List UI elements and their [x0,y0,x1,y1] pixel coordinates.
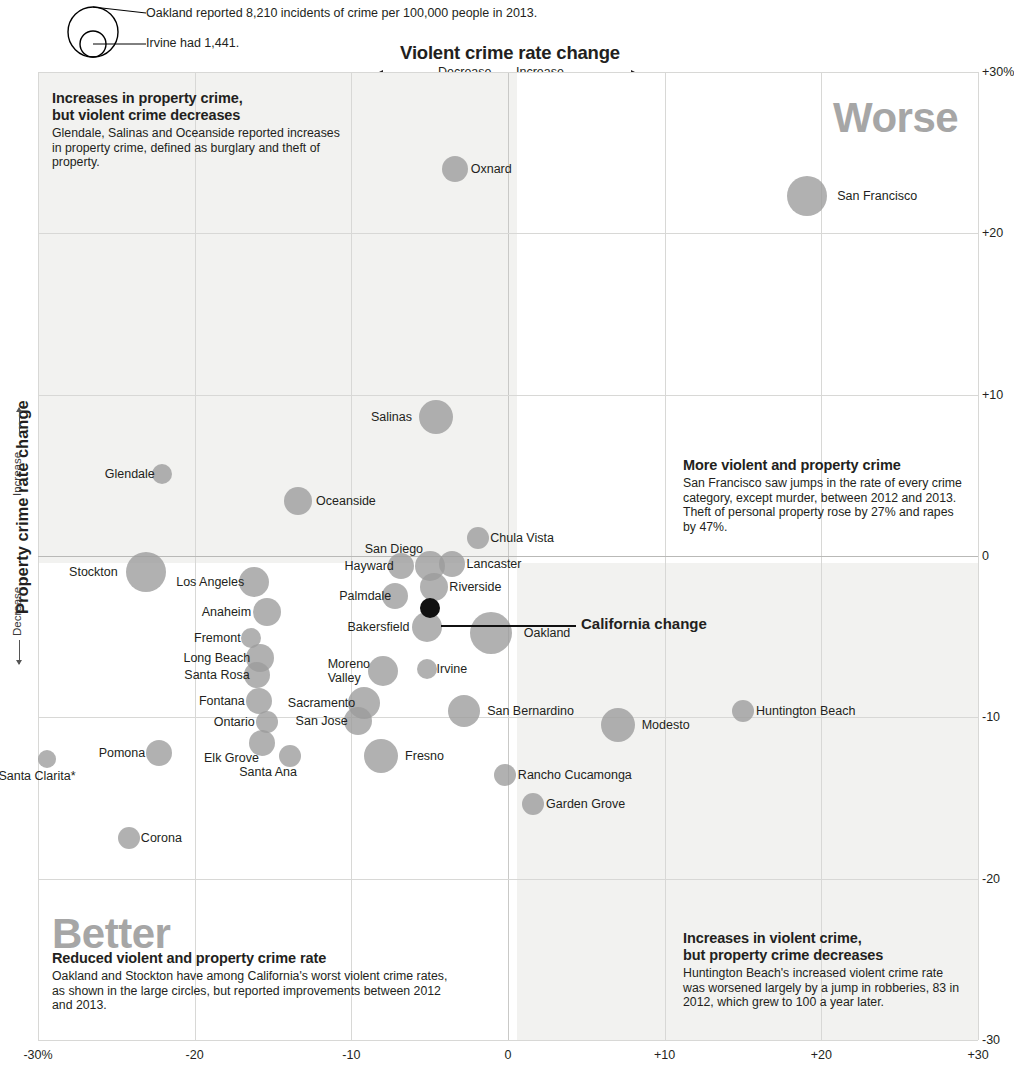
bubble-fresno[interactable] [364,739,398,773]
gridline-horizontal--20 [38,879,978,880]
annotation-bottom-left-heading-1: Reduced violent and property crime rate [52,950,326,966]
y-tick-+20: +20 [982,226,1003,240]
bubble-label-sacramento: Sacramento [288,696,355,710]
bubble-label-oxnard: Oxnard [471,162,512,176]
bubble-oceanside[interactable] [284,487,312,515]
x-tick-+30: +30 [967,1048,988,1062]
bubble-label-modesto: Modesto [642,718,690,732]
bubble-california-change[interactable] [420,598,440,618]
legend-large-leader [93,7,146,13]
bubble-label-moreno-valley: MorenoValley [328,657,370,685]
x-axis-title: Violent crime rate change [330,42,690,64]
annotation-middle-right-body: San Francisco saw jumps in the rate of e… [683,476,968,534]
gridline-horizontal-10 [38,395,978,396]
bubble-label-palmdale: Palmdale [339,589,391,603]
bubble-salinas[interactable] [419,400,453,434]
bubble-label-anaheim: Anaheim [202,605,251,619]
annotation-bottom-right-body: Huntington Beach's increased violent cri… [683,966,968,1010]
bubble-label-santa-ana: Santa Ana [239,765,297,779]
y-decrease-arrow-icon [19,640,20,664]
y-axis-direction-block: Decrease Increase [11,404,29,664]
bubble-anaheim[interactable] [253,598,281,626]
bubble-label-riverside: Riverside [449,580,501,594]
bubble-label-santa-rosa: Santa Rosa [184,668,249,682]
bubble-label-san-bernardino: San Bernardino [487,704,574,718]
annotation-bottom-right-heading-1: Increases in violent crime, [683,930,862,946]
bubble-label-oakland: Oakland [524,626,571,640]
x-tick-+20: +20 [811,1048,832,1062]
bubble-santa-ana[interactable] [279,745,301,767]
bubble-oxnard[interactable] [442,156,468,182]
bubble-label-glendale: Glendale [105,467,155,481]
california-change-label: California change [581,615,707,632]
bubble-modesto[interactable] [601,708,635,742]
annotation-top-left-heading-2: but violent crime decreases [52,107,240,123]
bubble-label-fresno: Fresno [405,749,444,763]
x-tick-+10: +10 [654,1048,675,1062]
scatter-plot-area: OxnardSan FranciscoSalinasGlendaleOceans… [38,72,978,1040]
y-tick-0: 0 [982,549,989,563]
gridline-horizontal-20 [38,233,978,234]
bubble-label-pomona: Pomona [99,746,146,760]
annotation-bottom-left: Reduced violent and property crime rate … [52,950,452,1013]
bubble-label-huntington-beach: Huntington Beach [756,704,855,718]
legend-large-circle [68,7,118,57]
annotation-top-left: Increases in property crime, but violent… [52,90,352,170]
quadrant-word-worse: Worse [833,94,958,142]
bubble-label-hayward: Hayward [344,559,393,573]
x-tick--20: -20 [186,1048,204,1062]
bubble-santa-clarita[interactable] [38,750,56,768]
bubble-label-garden-grove: Garden Grove [546,797,625,811]
y-tick--30: -30 [982,1033,1000,1047]
bubble-riverside[interactable] [420,573,448,601]
bubble-label-salinas: Salinas [371,410,412,424]
y-tick-+10: +10 [982,388,1003,402]
y-tick-+30%: +30% [982,65,1014,79]
bubble-label-chula-vista: Chula Vista [490,531,554,545]
x-tick-0: 0 [505,1048,512,1062]
gridline-horizontal-30 [38,72,978,73]
bubble-pomona[interactable] [146,740,172,766]
y-tick--20: -20 [982,872,1000,886]
gridline-horizontal--30 [38,1040,978,1041]
annotation-top-left-body: Glendale, Salinas and Oceanside reported… [52,126,352,170]
bubble-irvine[interactable] [417,659,437,679]
x-tick--10: -10 [342,1048,360,1062]
annotation-bottom-right: Increases in violent crime, but property… [683,930,968,1010]
bubble-rancho-cucamonga[interactable] [494,764,516,786]
x-tick--30%: -30% [23,1048,52,1062]
bubble-stockton[interactable] [126,552,166,592]
bubble-label-fontana: Fontana [199,694,245,708]
bubble-label-elk-grove: Elk Grove [204,751,259,765]
annotation-bottom-left-body: Oakland and Stockton have among Californ… [52,969,452,1013]
annotation-middle-right-heading-1: More violent and property crime [683,457,901,473]
bubble-corona[interactable] [118,827,140,849]
bubble-label-fremont: Fremont [194,631,241,645]
annotation-middle-right: More violent and property crime San Fran… [683,457,968,534]
bubble-oakland[interactable] [470,612,512,654]
legend-small-label: Irvine had 1,441. [146,36,239,50]
y-increase-arrow-icon [19,408,20,436]
bubble-label-irvine: Irvine [437,662,468,676]
y-decrease-label: Decrease [11,587,23,636]
bubble-label-los-angeles: Los Angeles [176,575,244,589]
bubble-label-ontario: Ontario [214,715,255,729]
y-increase-label: Increase [11,452,23,496]
bubble-moreno-valley[interactable] [368,656,398,686]
bubble-label-san-jose: San Jose [296,714,348,728]
bubble-label-bakersfield: Bakersfield [348,620,410,634]
bubble-label-lancaster: Lancaster [467,557,522,571]
legend-large-label: Oakland reported 8,210 incidents of crim… [146,6,537,20]
bubble-label-rancho-cucamonga: Rancho Cucamonga [518,768,632,782]
gridline-vertical-30 [978,72,979,1040]
bubble-lancaster[interactable] [439,551,465,577]
bubble-san-bernardino[interactable] [448,695,480,727]
bubble-label-corona: Corona [141,831,182,845]
bubble-label-san-francisco: San Francisco [837,189,917,203]
bubble-label-stockton: Stockton [69,565,118,579]
california-change-leader-line [441,625,576,627]
annotation-bottom-right-heading-2: but property crime decreases [683,947,883,963]
y-tick--10: -10 [982,710,1000,724]
bubble-label-long-beach: Long Beach [183,651,250,665]
bubble-huntington-beach[interactable] [732,700,754,722]
